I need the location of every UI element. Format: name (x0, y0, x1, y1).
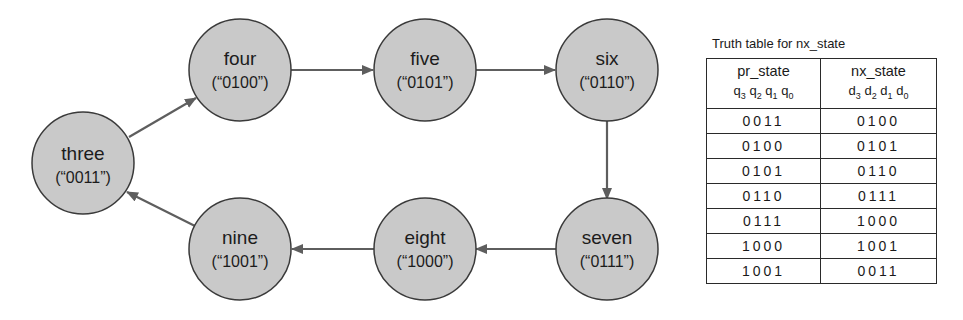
state-name: nine (222, 227, 258, 248)
table-header-row: pr_state q3 q2 q1 q0 nx_state d3 d2 d1 d… (707, 59, 937, 109)
table-row: 01000101 (707, 134, 937, 159)
nx-state-cell: 0100 (821, 109, 937, 134)
table-row: 01100111 (707, 184, 937, 209)
header-name: nx_state (821, 62, 936, 81)
table-row: 01111000 (707, 209, 937, 234)
state-node-nine: nine (“1001”) (189, 198, 291, 300)
state-node-seven: seven (“0111”) (556, 198, 658, 300)
state-name: three (61, 143, 104, 164)
state-name: six (595, 48, 619, 69)
state-node-four: four (“0100”) (189, 19, 291, 121)
pr-state-cell: 0110 (707, 184, 821, 209)
state-node-eight: eight (“1000”) (374, 198, 476, 300)
state-code: (“0100”) (212, 74, 269, 91)
pr-state-cell: 1001 (707, 259, 821, 284)
state-name: seven (582, 227, 633, 248)
state-name: four (224, 48, 257, 69)
header-bits: q3 q2 q1 q0 (707, 81, 820, 106)
nx-state-cell: 0110 (821, 159, 937, 184)
pr-state-cell: 0011 (707, 109, 821, 134)
pr-state-cell: 0101 (707, 159, 821, 184)
state-code: (“0111”) (580, 253, 635, 270)
nx-state-cell: 0011 (821, 259, 937, 284)
pr-state-cell: 1000 (707, 234, 821, 259)
table-row: 10001001 (707, 234, 937, 259)
pr-state-cell: 0100 (707, 134, 821, 159)
table-row: 00110100 (707, 109, 937, 134)
state-node-six: six (“0110”) (556, 19, 658, 121)
edge-nine-to-three (127, 192, 195, 226)
pr-state-cell: 0111 (707, 209, 821, 234)
header-pr-state: pr_state q3 q2 q1 q0 (707, 59, 821, 109)
nx-state-cell: 1000 (821, 209, 937, 234)
state-diagram: three (“0011”) four (“0100”) five (“0101… (0, 0, 700, 320)
table-row: 10010011 (707, 259, 937, 284)
nx-state-cell: 0111 (821, 184, 937, 209)
table-row: 01010110 (707, 159, 937, 184)
truth-table-title: Truth table for nx_state (712, 36, 938, 51)
state-code: (“1001”) (212, 253, 269, 270)
truth-table-panel: Truth table for nx_state pr_state q3 q2 … (706, 36, 938, 284)
state-node-five: five (“0101”) (374, 19, 476, 121)
header-bits: d3 d2 d1 d0 (821, 81, 936, 106)
state-code: (“1000”) (397, 253, 454, 270)
state-name: five (410, 48, 440, 69)
nx-state-cell: 0101 (821, 134, 937, 159)
state-name: eight (404, 227, 446, 248)
nx-state-cell: 1001 (821, 234, 937, 259)
truth-table: pr_state q3 q2 q1 q0 nx_state d3 d2 d1 d… (706, 58, 937, 284)
state-code: (“0101”) (397, 74, 454, 91)
header-name: pr_state (707, 62, 820, 81)
header-nx-state: nx_state d3 d2 d1 d0 (821, 59, 937, 109)
state-node-three: three (“0011”) (32, 112, 134, 214)
state-code: (“0110”) (579, 74, 635, 91)
state-code: (“0011”) (55, 169, 111, 186)
edge-three-to-four (129, 98, 196, 137)
